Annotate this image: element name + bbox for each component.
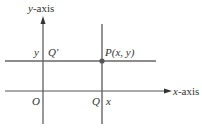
y-axis-arrow-icon [41,16,46,24]
point-p-label: P(x, y) [104,46,135,59]
point-p-marker [99,58,104,63]
y-coord-label: y [33,46,39,58]
q-label: Q [92,95,100,107]
origin-label: O [32,95,40,107]
coordinate-diagram: y-axis x-axis y Q′ P(x, y) O Q x [0,0,202,132]
q-prime-label: Q′ [48,46,59,58]
y-axis-label-suffix: -axis [33,2,54,14]
y-axis-label: y-axis [27,2,54,14]
x-axis-arrow-icon [164,89,172,94]
x-axis-label: x-axis [172,85,199,97]
x-coord-label: x [105,95,111,107]
